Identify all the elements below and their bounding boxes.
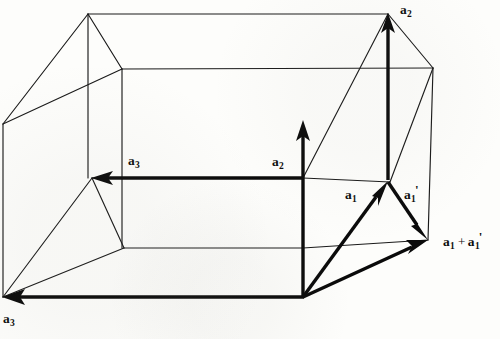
label-a1-sub: 1	[352, 194, 357, 204]
label-a1-plus-a1-prime: a1+a1'	[443, 230, 482, 252]
label-sum-second-base: a	[468, 234, 475, 249]
label-a3-middle-base: a	[128, 153, 135, 168]
edge-top-apex-right-to-front	[388, 14, 433, 68]
label-a3-bottom: a3	[3, 312, 15, 328]
label-a2-top: a2	[400, 3, 412, 19]
label-a3-bottom-base: a	[3, 311, 10, 326]
edge-left-to-inner-top	[3, 69, 122, 124]
vector-diagram-canvas	[0, 0, 500, 339]
label-sum-first-base: a	[443, 234, 450, 249]
edge-left-to-top-apex	[3, 14, 88, 124]
edge-mid-to-top-apex-right	[303, 14, 388, 178]
edge-midleft-to-innerfront	[92, 178, 124, 248]
label-a1: a1	[345, 188, 357, 204]
label-a3-middle-sub: 3	[135, 160, 140, 170]
vector-a3-bottom	[2, 289, 304, 305]
label-a2-middle: a2	[272, 155, 284, 171]
label-a1-base: a	[345, 187, 352, 202]
label-a3-middle: a3	[128, 154, 140, 170]
label-a1-prime: a1'	[404, 183, 419, 205]
figure-root: a2 a3 a2 a1 a1' a1+a1' a3	[0, 0, 500, 339]
vector-a2-right	[381, 13, 395, 180]
edge-mid-to-upper-right	[303, 178, 390, 182]
edge-vertical-right-front	[428, 68, 433, 240]
plus-sign-icon: +	[455, 234, 468, 249]
vector-a3-mid	[91, 171, 304, 185]
vector-a2-mid	[296, 120, 310, 296]
vector-a1-arrowhead	[372, 181, 388, 206]
label-a1-prime-mark: '	[415, 182, 419, 197]
label-a2-top-sub: 2	[407, 9, 412, 19]
label-a2-middle-sub: 2	[279, 161, 284, 171]
parallelepiped-edges	[3, 14, 433, 297]
label-a3-bottom-sub: 3	[10, 318, 15, 328]
label-sum-prime-mark: '	[479, 229, 483, 244]
edge-upper-right-to-front-top	[390, 68, 433, 182]
label-a1-prime-base: a	[404, 187, 411, 202]
label-a2-middle-base: a	[272, 154, 279, 169]
label-a2-top-base: a	[400, 2, 407, 17]
edge-top-apex-left-to-inner	[88, 14, 122, 69]
